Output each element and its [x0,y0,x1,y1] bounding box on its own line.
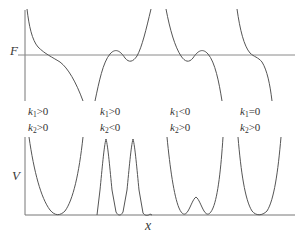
condition-2-k2-line: k2<0 [100,120,120,136]
condition-2-k2-subscript: 2 [105,126,109,135]
condition-block-2: k1>0 k2<0 [100,104,120,136]
condition-4-k1-subscript: 1 [245,110,249,119]
condition-4-k2-line: k2>0 [240,120,260,136]
condition-1-k1-relation: >0 [37,105,49,117]
condition-block-4: k1=0 k2>0 [240,104,260,136]
condition-1-k1-subscript: 1 [33,110,37,119]
condition-3-k1-relation: <0 [179,105,191,117]
condition-3-k2-relation: >0 [179,121,191,133]
condition-4-k2-subscript: 2 [245,126,249,135]
condition-1-k2-subscript: 2 [33,126,37,135]
x-axis-label: x [145,218,151,234]
potential-curve-panel-1 [29,137,83,215]
potential-curve-panel-2 [97,139,152,215]
potential-curve-panel-3 [167,137,223,214]
condition-1-k2-relation: >0 [37,121,49,133]
condition-block-1: k1>0 k2>0 [28,104,48,136]
potential-axis-label: V [12,168,20,184]
condition-3-k1-subscript: 1 [175,110,179,119]
force-axis-label: F [10,43,18,59]
condition-3-k2-subscript: 2 [175,126,179,135]
potential-curve-panel-4 [238,137,281,215]
condition-1-k1-line: k1>0 [28,104,48,120]
physics-figure: F V x k1>0 k2>0 k1>0 k2<0 k1<0 k2>0 k1=0… [0,0,307,240]
condition-2-k1-line: k1>0 [100,104,120,120]
condition-4-k1-line: k1=0 [240,104,260,120]
condition-block-3: k1<0 k2>0 [170,104,190,136]
condition-3-k1-line: k1<0 [170,104,190,120]
condition-2-k1-relation: >0 [109,105,121,117]
condition-4-k2-relation: >0 [249,121,261,133]
condition-2-k2-relation: <0 [109,121,121,133]
condition-4-k1-relation: =0 [249,105,261,117]
condition-3-k2-line: k2>0 [170,120,190,136]
condition-1-k2-line: k2>0 [28,120,48,136]
condition-2-k1-subscript: 1 [105,110,109,119]
